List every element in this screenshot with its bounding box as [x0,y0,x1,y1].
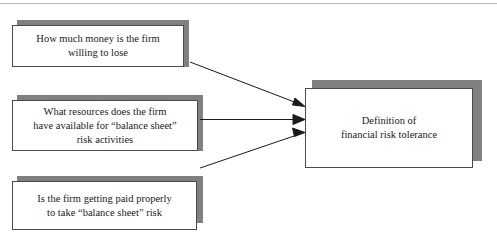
definition-box[interactable]: Definition of financial risk tolerance [305,88,473,168]
money-box-label: How much money is the firm willing to lo… [30,32,165,60]
resources-box-label: What resources does the firm have availa… [27,105,182,147]
top-divider-rule [0,3,497,4]
arrow-paid-to-definition [200,128,305,168]
paid-box[interactable]: Is the firm getting paid properly to tak… [12,181,197,230]
definition-box-label: Definition of financial risk tolerance [335,114,443,142]
arrow-resources-to-definition [200,115,305,125]
money-box[interactable]: How much money is the firm willing to lo… [12,25,184,67]
arrow-money-to-definition [190,62,305,107]
paid-box-label: Is the firm getting paid properly to tak… [31,192,177,220]
resources-box[interactable]: What resources does the firm have availa… [12,100,198,151]
diagram-canvas: How much money is the firm willing to lo… [0,0,497,241]
